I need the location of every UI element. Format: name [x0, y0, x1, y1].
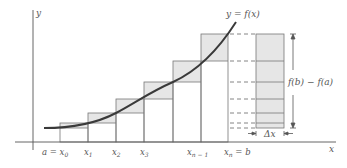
stacked-differences — [256, 34, 284, 128]
dashed-projections — [230, 34, 256, 128]
curve-label: y = f(x) — [225, 9, 260, 19]
riemann-sum-diagram: y x y = f(x) f(b) − f(a) Δx a = x0 x1 x2… — [0, 0, 347, 168]
tick-label-x3: x3 — [140, 147, 149, 158]
tick-label-x2: x2 — [112, 147, 121, 158]
difference-label: f(b) − f(a) — [287, 77, 334, 87]
tick-label-xn: xn = b — [224, 147, 251, 158]
tick-label-x1: x1 — [84, 147, 93, 158]
x-axis-label: x — [329, 144, 334, 154]
tick-labels: a = x0 x1 x2 x3 xn − 1 xn = b — [42, 147, 251, 158]
tick-label-x0: a = x0 — [42, 147, 68, 158]
delta-x-label: Δx — [263, 129, 276, 139]
y-axis-label: y — [35, 8, 42, 18]
tick-label-xn-1: xn − 1 — [187, 147, 208, 158]
shaded-differences — [60, 34, 284, 128]
